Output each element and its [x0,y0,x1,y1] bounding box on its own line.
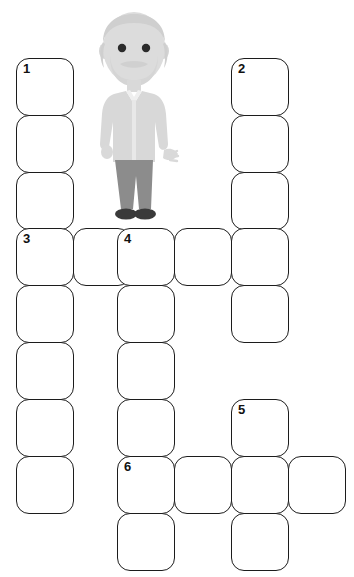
cell-letter [17,343,73,399]
cell-letter [232,286,288,342]
clue-number-2: 2 [238,61,245,77]
cell-c5-r7[interactable] [288,456,346,514]
cell-c3-r3[interactable] [174,228,232,286]
cell-c2-r5[interactable] [117,342,175,400]
cell-c0-r1[interactable] [16,115,74,173]
cell-c4-r3[interactable] [231,228,289,286]
cell-c4-r0[interactable]: 2 [231,58,289,116]
cell-letter [175,457,231,513]
cell-letter [118,514,174,570]
cell-letter [17,400,73,456]
cell-c4-r7[interactable] [231,456,289,514]
cell-c0-r4[interactable] [16,285,74,343]
clue-number-4: 4 [124,231,131,247]
cell-c4-r8[interactable] [231,513,289,571]
clue-number-6: 6 [124,459,131,475]
cell-c4-r1[interactable] [231,115,289,173]
cell-c2-r4[interactable] [117,285,175,343]
cell-letter [232,514,288,570]
clue-number-1: 1 [23,61,30,77]
cell-c0-r3[interactable]: 3 [16,228,74,286]
cell-letter [232,229,288,285]
cell-c0-r7[interactable] [16,456,74,514]
cell-letter [17,457,73,513]
cell-letter [175,229,231,285]
cell-c2-r6[interactable] [117,399,175,457]
clue-number-5: 5 [238,402,245,418]
cell-c0-r6[interactable] [16,399,74,457]
cell-letter [232,116,288,172]
cell-letter [289,457,345,513]
cell-letter [118,343,174,399]
cell-letter [232,173,288,229]
clue-number-3: 3 [23,231,30,247]
cell-c3-r7[interactable] [174,456,232,514]
cell-letter [17,116,73,172]
cell-letter [118,286,174,342]
cell-c2-r3[interactable]: 4 [117,228,175,286]
cell-c0-r5[interactable] [16,342,74,400]
cell-c2-r8[interactable] [117,513,175,571]
cell-letter [118,400,174,456]
cell-letter [17,286,73,342]
cell-letter [232,457,288,513]
cell-letter [17,173,73,229]
cell-c0-r2[interactable] [16,172,74,230]
cell-c2-r7[interactable]: 6 [117,456,175,514]
cell-c4-r4[interactable] [231,285,289,343]
cell-c4-r2[interactable] [231,172,289,230]
cell-c4-r6[interactable]: 5 [231,399,289,457]
crossword-grid[interactable]: 123456 [0,0,354,577]
cell-c0-r0[interactable]: 1 [16,58,74,116]
